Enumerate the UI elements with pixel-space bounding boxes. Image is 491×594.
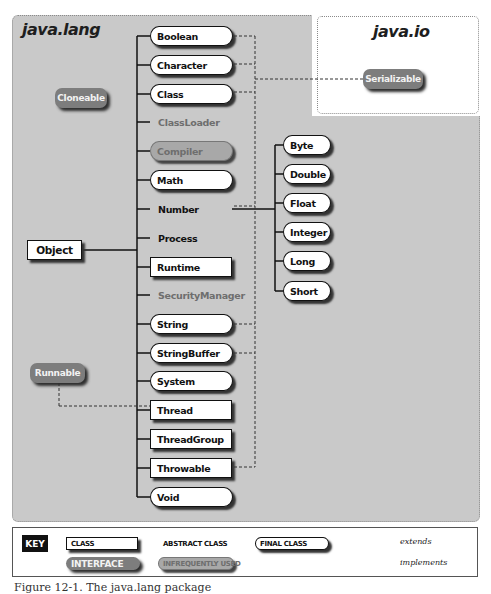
class-runtime: Runtime [150, 257, 232, 277]
class-system: System [150, 371, 233, 391]
class-threadgroup: ThreadGroup [150, 429, 232, 449]
class-character: Character [150, 55, 233, 75]
interface-serializable: Serializable [363, 69, 423, 89]
class-class: Class [150, 84, 233, 104]
java-lang-title: java.lang [22, 20, 100, 39]
class-byte: Byte [283, 135, 331, 155]
java-io-title: java.io [373, 22, 430, 41]
legend-interface: INTERFACE [66, 557, 140, 570]
class-thread: Thread [150, 400, 232, 420]
class-securitymanager: SecurityManager [152, 285, 232, 305]
class-math: Math [150, 170, 233, 190]
class-stringbuffer: StringBuffer [150, 343, 233, 363]
class-float: Float [283, 193, 331, 213]
class-double: Double [283, 164, 331, 184]
class-void: Void [150, 487, 233, 507]
interface-cloneable: Cloneable [55, 88, 107, 108]
figure-caption: Figure 12-1. The java.lang package [14, 581, 211, 594]
class-boolean: Boolean [150, 26, 233, 46]
class-classloader: ClassLoader [152, 112, 232, 132]
class-compiler: Compiler [150, 141, 233, 161]
class-number: Number [152, 199, 232, 219]
legend-class: CLASS [66, 537, 138, 550]
class-integer: Integer [283, 222, 331, 242]
legend-infrequently-used: INFREQUENTLY USED [158, 557, 234, 570]
class-long: Long [283, 251, 331, 271]
legend-final-class: FINAL CLASS [255, 537, 329, 550]
interface-runnable: Runnable [30, 363, 85, 383]
class-short: Short [283, 281, 331, 301]
legend-implements-label: implements [400, 558, 447, 567]
class-object: Object [27, 240, 82, 260]
class-process: Process [152, 228, 232, 248]
legend-abstract-class: ABSTRACT CLASS [159, 537, 233, 550]
class-string: String [150, 314, 233, 334]
legend-extends-label: extends [400, 537, 432, 546]
legend-key-title: KEY [22, 535, 48, 552]
class-throwable: Throwable [150, 458, 232, 478]
